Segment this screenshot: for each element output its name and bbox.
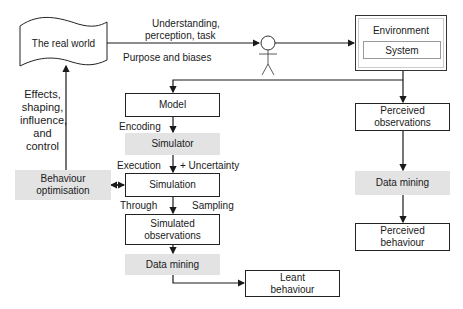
understanding-label: Understanding, xyxy=(152,18,220,30)
sampling-label: Sampling xyxy=(192,200,234,212)
and-line: and xyxy=(20,127,65,140)
simulated-observations-box: Simulated observations xyxy=(125,214,220,245)
perception-task-label: perception, task xyxy=(145,30,216,42)
uncertainty-label: + Uncertainty xyxy=(180,160,239,172)
system-box: System xyxy=(363,41,441,59)
simulated-observations-line1: Simulated xyxy=(150,218,194,230)
perceived-observations-line1: Perceived xyxy=(380,105,424,117)
environment-box: Environment System xyxy=(355,15,447,71)
perceived-observations-box: Perceived observations xyxy=(355,103,450,131)
shaping-line: shaping, xyxy=(20,101,65,114)
effects-label: Effects, shaping, influence, and control xyxy=(20,88,65,153)
data-mining-left-box: Data mining xyxy=(125,254,220,275)
observer-icon xyxy=(261,36,275,50)
simulation-box: Simulation xyxy=(125,173,220,197)
behaviour-optimisation-line2: optimisation xyxy=(36,185,89,197)
environment-title: Environment xyxy=(356,25,446,36)
real-world-label: The real world xyxy=(20,38,107,49)
simulated-observations-line2: observations xyxy=(144,230,201,242)
model-box: Model xyxy=(125,93,220,117)
perceived-behaviour-box: Perceived behaviour xyxy=(355,223,450,251)
effects-line: Effects, xyxy=(20,88,65,101)
diagram-canvas: The real world Understanding, perception… xyxy=(0,0,463,309)
behaviour-optimisation-line1: Behaviour xyxy=(40,173,85,185)
leant-behaviour-box: Leant behaviour xyxy=(245,270,340,297)
perceived-observations-line2: observations xyxy=(374,117,431,129)
execution-label: Execution xyxy=(117,160,161,172)
leant-behaviour-line1: Leant xyxy=(280,272,305,284)
leant-behaviour-line2: behaviour xyxy=(271,284,315,296)
influence-line: influence, xyxy=(20,114,65,127)
behaviour-optimisation-box: Behaviour optimisation xyxy=(15,170,111,200)
through-label: Through xyxy=(120,200,157,212)
control-line: control xyxy=(20,140,65,153)
purpose-biases-label: Purpose and biases xyxy=(123,52,211,64)
perceived-behaviour-line2: behaviour xyxy=(381,237,425,249)
perceived-behaviour-line1: Perceived xyxy=(380,225,424,237)
encoding-label: Encoding xyxy=(119,121,161,133)
data-mining-right-box: Data mining xyxy=(355,171,450,195)
simulator-box: Simulator xyxy=(125,133,220,155)
